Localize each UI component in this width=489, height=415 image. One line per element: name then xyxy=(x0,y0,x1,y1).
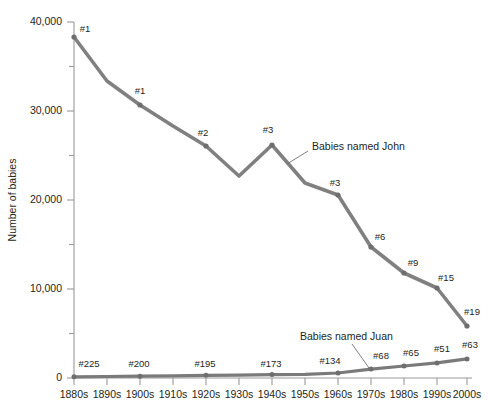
juan-rank-2000s: #63 xyxy=(462,339,478,350)
xtick-label-1900s: 1900s xyxy=(126,388,155,400)
john-rank-1900s: #1 xyxy=(135,85,146,96)
juan-rank-1970s: #68 xyxy=(373,350,389,361)
juan-rank-1900s: #200 xyxy=(128,358,149,369)
juan-label-leader xyxy=(352,344,369,368)
ytick-label-30000: 30,000 xyxy=(30,104,62,116)
john-series-annotation: Babies named John xyxy=(312,140,405,152)
x-tick-labels: 1880s 1890s 1900s 1910s 1920s 1930s 1940… xyxy=(60,388,482,400)
xtick-label-1920s: 1920s xyxy=(192,388,221,400)
john-rank-1940s: #3 xyxy=(263,124,274,135)
xtick-label-1940s: 1940s xyxy=(258,388,287,400)
john-rank-1990s: #15 xyxy=(438,272,454,283)
y-major-ticks xyxy=(67,22,74,378)
xtick-label-1990s: 1990s xyxy=(423,388,452,400)
juan-rank-1990s: #51 xyxy=(434,343,450,354)
john-rank-2000s: #19 xyxy=(464,306,480,317)
john-markers xyxy=(71,34,469,328)
john-rank-1920s: #2 xyxy=(198,127,209,138)
juan-rank-1880s: #225 xyxy=(78,358,99,369)
john-rank-1980s: #9 xyxy=(408,257,419,268)
juan-series-annotation: Babies named Juan xyxy=(300,330,393,342)
ytick-label-40000: 40,000 xyxy=(30,15,62,27)
juan-rank-1940s: #173 xyxy=(260,358,281,369)
john-rank-1970s: #6 xyxy=(375,231,386,242)
xtick-label-1980s: 1980s xyxy=(390,388,419,400)
juan-rank-1960s: #134 xyxy=(319,355,340,366)
xtick-label-1930s: 1930s xyxy=(225,388,254,400)
john-line xyxy=(74,37,467,326)
ytick-label-20000: 20,000 xyxy=(30,193,62,205)
xtick-label-1880s: 1880s xyxy=(60,388,89,400)
xtick-label-1890s: 1890s xyxy=(93,388,122,400)
john-rank-1880s: #1 xyxy=(80,23,91,34)
john-rank-1960s: #3 xyxy=(330,177,341,188)
john-label-leader xyxy=(287,151,308,164)
xtick-label-1960s: 1960s xyxy=(324,388,353,400)
juan-rank-1920s: #195 xyxy=(194,358,215,369)
xtick-label-2000s: 2000s xyxy=(453,388,482,400)
y-axis-title: Number of babies xyxy=(6,159,18,242)
series-juan: #225 #200 #195 #173 #134 #68 #65 #51 #63… xyxy=(72,330,478,379)
xtick-label-1950s: 1950s xyxy=(291,388,320,400)
ytick-label-0: 0 xyxy=(56,371,62,383)
chart-svg: 0 10,000 20,000 30,000 40,000 Number of … xyxy=(0,0,489,415)
x-ticks xyxy=(74,378,467,385)
john-rank-labels: #1 #1 #2 #3 #3 #6 #9 #15 #19 xyxy=(80,23,480,317)
xtick-label-1910s: 1910s xyxy=(159,388,188,400)
baby-names-line-chart: 0 10,000 20,000 30,000 40,000 Number of … xyxy=(0,0,489,415)
series-john: #1 #1 #2 #3 #3 #6 #9 #15 #19 Babies name… xyxy=(71,23,480,329)
ytick-label-10000: 10,000 xyxy=(30,282,62,294)
xtick-label-1970s: 1970s xyxy=(357,388,386,400)
juan-rank-1980s: #65 xyxy=(403,347,419,358)
